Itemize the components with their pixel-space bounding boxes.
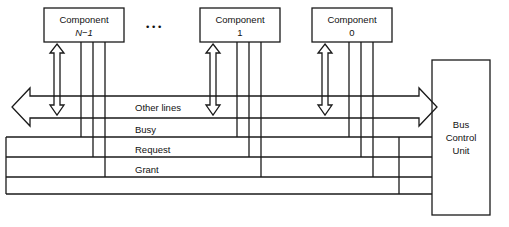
- component-n-1-data-arrow: [50, 44, 64, 115]
- component-n-1-group[interactable]: Component N−1: [44, 8, 124, 177]
- bus-label-request: Request: [135, 144, 171, 155]
- bus-label-other-lines: Other lines: [135, 102, 181, 113]
- component-0-data-arrow: [318, 44, 332, 115]
- diagram-canvas: Component N−1 • • • Component 1 Componen…: [0, 0, 509, 227]
- component-1-label-line1: Component: [215, 14, 264, 25]
- bus-label-busy: Busy: [135, 124, 156, 135]
- bus-control-unit-label-line1: Bus: [453, 119, 470, 130]
- components-ellipsis: • • •: [146, 21, 161, 32]
- component-1-group[interactable]: Component 1: [200, 8, 280, 177]
- bus-architecture-diagram: Component N−1 • • • Component 1 Componen…: [0, 0, 509, 227]
- component-n-1-label-line1: Component: [59, 14, 108, 25]
- bus-control-unit-group[interactable]: Bus Control Unit: [432, 60, 490, 215]
- component-1-data-arrow: [206, 44, 220, 115]
- component-n-1-label-line2: N−1: [75, 27, 93, 38]
- component-0-label-line2: 0: [349, 27, 354, 38]
- component-0-label-line1: Component: [327, 14, 376, 25]
- component-1-label-line2: 1: [237, 27, 242, 38]
- bus-label-grant: Grant: [135, 164, 159, 175]
- component-0-group[interactable]: Component 0: [312, 8, 392, 177]
- bus-control-unit-label-line3: Unit: [453, 145, 470, 156]
- bus-control-unit-label-line2: Control: [446, 132, 477, 143]
